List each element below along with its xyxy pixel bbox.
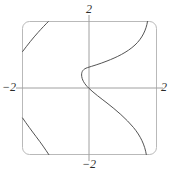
x-axis-max-tick-label: 2 (161, 81, 167, 93)
y-axis-max-tick-label: 2 (1, 3, 176, 15)
x-axis-min-tick-label: −2 (2, 81, 16, 93)
curve-lower-left-branch (23, 118, 49, 155)
y-axis-min-tick-label: −2 (1, 158, 176, 170)
plot-canvas (0, 0, 176, 178)
math-plot-figure: 2 −2 −2 2 (0, 0, 176, 178)
curve-upper-left-branch (23, 22, 49, 52)
